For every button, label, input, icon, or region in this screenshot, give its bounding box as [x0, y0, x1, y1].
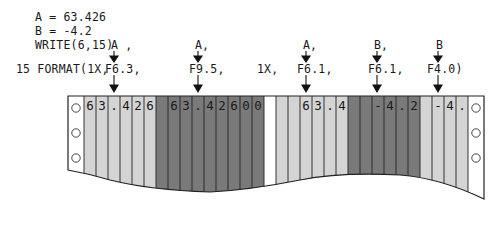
- output-char: 0: [240, 99, 252, 113]
- output-char: 3: [180, 99, 192, 113]
- output-char: 3: [312, 99, 324, 113]
- output-char: 2: [408, 99, 420, 113]
- output-char: 3: [96, 99, 108, 113]
- output-char: 6: [144, 99, 156, 113]
- output-char: 6: [84, 99, 96, 113]
- output-char: .: [396, 99, 408, 113]
- output-char: 4: [336, 99, 348, 113]
- output-char: .: [192, 99, 204, 113]
- output-char: .: [456, 99, 468, 113]
- output-char: 6: [168, 99, 180, 113]
- output-char: 6: [228, 99, 240, 113]
- output-char: 4: [120, 99, 132, 113]
- output-char: 4: [204, 99, 216, 113]
- field-1x: [264, 96, 276, 203]
- output-char: 6: [300, 99, 312, 113]
- output-char: -: [432, 99, 444, 113]
- output-char: 2: [132, 99, 144, 113]
- output-char: .: [108, 99, 120, 113]
- output-char: 2: [216, 99, 228, 113]
- output-char: .: [324, 99, 336, 113]
- output-char: 4: [384, 99, 396, 113]
- mapping-arrows: [110, 51, 442, 92]
- output-char: 0: [252, 99, 264, 113]
- output-char: -: [372, 99, 384, 113]
- output-char: 4: [444, 99, 456, 113]
